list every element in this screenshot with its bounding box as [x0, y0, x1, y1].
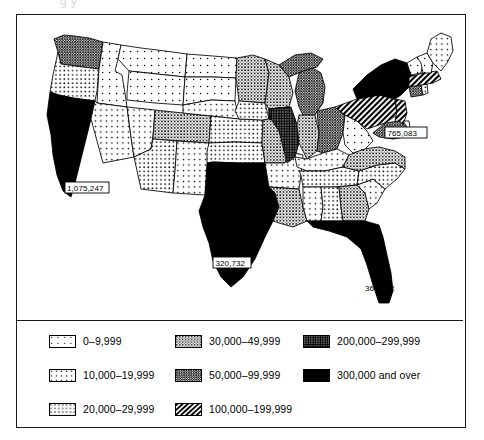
legend-divider [17, 320, 463, 321]
legend-item-10000-19999[interactable]: 10,000–19,999 [49, 364, 154, 386]
legend-label-200000-299999: 200,000–299,999 [337, 336, 420, 347]
us-choropleth-map: 1,075,247 320,732 364,102 765,083 [17, 15, 463, 320]
legend-label-0-9999: 0–9,999 [83, 336, 122, 347]
legend-column-2: 30,000–49,999 50,000–99,999 100,000–199,… [175, 330, 292, 432]
legend-label-30000-49999: 30,000–49,999 [209, 336, 280, 347]
state-indiana[interactable] [297, 115, 319, 159]
legend-column-3: 200,000–299,999 300,000 and over [303, 330, 420, 398]
svg-text:765,083: 765,083 [388, 129, 418, 138]
svg-text:1,075,247: 1,075,247 [67, 184, 104, 193]
state-iowa[interactable] [235, 101, 269, 120]
legend-swatch-100000-199999 [175, 403, 202, 416]
legend-swatch-300000-over [303, 369, 330, 382]
state-oklahoma[interactable] [207, 142, 265, 163]
state-minnesota[interactable] [236, 55, 269, 103]
legend-swatch-10000-19999 [49, 369, 76, 382]
legend-label-100000-199999: 100,000–199,999 [209, 404, 292, 415]
map-panel: 1,075,247 320,732 364,102 765,083 [17, 15, 463, 320]
legend-item-100000-199999[interactable]: 100,000–199,999 [175, 398, 292, 420]
legend-item-20000-29999[interactable]: 20,000–29,999 [49, 398, 154, 420]
legend-item-200000-299999[interactable]: 200,000–299,999 [303, 330, 420, 352]
texas-value-label: 320,732 [213, 257, 251, 268]
svg-text:320,732: 320,732 [216, 259, 246, 268]
figure-frame: 1,075,247 320,732 364,102 765,083 [16, 14, 466, 428]
legend-swatch-30000-49999 [175, 335, 202, 348]
legend-label-20000-29999: 20,000–29,999 [83, 404, 154, 415]
florida-value-label: 364,102 [365, 284, 395, 293]
state-ohio[interactable] [317, 107, 345, 153]
legend-label-300000-over: 300,000 and over [337, 370, 420, 381]
state-montana[interactable] [118, 45, 187, 77]
legend-item-30000-49999[interactable]: 30,000–49,999 [175, 330, 292, 352]
legend-column-1: 0–9,999 10,000–19,999 20,000–29,999 [49, 330, 154, 432]
newyork-value-label: 765,083 [385, 127, 427, 138]
legend-label-50000-99999: 50,000–99,999 [209, 370, 280, 381]
state-mississippi[interactable] [303, 187, 323, 221]
legend-item-50000-99999[interactable]: 50,000–99,999 [175, 364, 292, 386]
state-new-mexico[interactable] [173, 141, 209, 195]
map-legend: 0–9,999 10,000–19,999 20,000–29,999 [17, 322, 463, 426]
cropped-title-remnant: g y [60, 0, 360, 10]
california-value-label: 1,075,247 [65, 182, 109, 193]
state-california[interactable] [47, 92, 95, 197]
legend-swatch-20000-29999 [49, 403, 76, 416]
svg-text:364,102: 364,102 [365, 284, 395, 293]
legend-item-300000-over[interactable]: 300,000 and over [303, 364, 420, 386]
legend-swatch-200000-299999 [303, 335, 330, 348]
state-wyoming[interactable] [127, 71, 185, 105]
legend-item-0-9999[interactable]: 0–9,999 [49, 330, 154, 352]
legend-swatch-0-9999 [49, 335, 76, 348]
state-new-york[interactable] [353, 59, 413, 99]
legend-swatch-50000-99999 [175, 369, 202, 382]
state-north-dakota[interactable] [185, 54, 237, 78]
legend-label-10000-19999: 10,000–19,999 [83, 370, 154, 381]
